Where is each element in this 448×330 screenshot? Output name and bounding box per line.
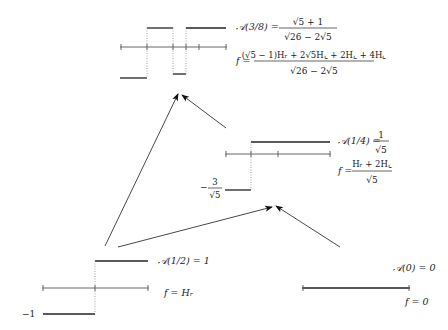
middle-low-denominator: √5 [210, 190, 221, 200]
bottom-right-f-label: f = 0 [404, 296, 429, 307]
bottom-left-A-label: 𝒜(1/2) = 1 [158, 255, 210, 266]
bottom-left-f-label: f = Hᵣ [163, 287, 194, 298]
arrow-bottom-right-to-middle [276, 206, 340, 247]
arrow-bottom-left-to-top [105, 94, 178, 246]
bottom-left-low-label: −1 [22, 309, 35, 319]
middle-f-numerator: Hᵣ + 2H⌞ [352, 159, 392, 169]
middle-formula-A: 𝒜(1/4) = 1 √5 [338, 130, 389, 155]
top-A-label: 𝒜(3/8) = [236, 21, 279, 32]
middle-step-function [225, 142, 331, 190]
middle-A-denominator: √5 [375, 145, 387, 155]
diagram-svg: 𝒜(3/8) = √5 + 1 √26 − 2√5 f = (√5 − 1)Hᵣ… [0, 0, 448, 330]
middle-formula-f: f = Hᵣ + 2H⌞ √5 [337, 159, 392, 185]
arrow-middle-to-top [182, 95, 226, 128]
middle-A-numerator: 1 [378, 130, 384, 140]
middle-f-denominator: √5 [366, 175, 378, 185]
bottom-right-step-function [302, 285, 410, 291]
bottom-left-step-function [42, 261, 149, 314]
top-A-numerator: √5 + 1 [293, 17, 323, 27]
arrow-bottom-left-to-middle [118, 207, 272, 247]
middle-f-label: f = [337, 165, 353, 176]
diagram-canvas: 𝒜(3/8) = √5 + 1 √26 − 2√5 f = (√5 − 1)Hᵣ… [0, 0, 448, 330]
top-f-denominator: √26 − 2√5 [290, 66, 338, 76]
top-A-denominator: √26 − 2√5 [284, 32, 332, 42]
top-f-numerator: (√5 − 1)Hᵣ + 2√5H⌞ + 2H⌞ + 4H⌞ [242, 50, 387, 60]
middle-low-label: − 3 √5 [200, 177, 222, 200]
top-formula-A: 𝒜(3/8) = √5 + 1 √26 − 2√5 [236, 17, 337, 42]
top-formula-f: f = (√5 − 1)Hᵣ + 2√5H⌞ + 2H⌞ + 4H⌞ √26 −… [235, 50, 386, 76]
middle-low-numerator: 3 [212, 177, 217, 187]
top-step-function [120, 28, 227, 78]
bottom-right-A-label: 𝒜(0) = 0 [393, 262, 436, 273]
middle-low-minus: − [200, 182, 208, 192]
